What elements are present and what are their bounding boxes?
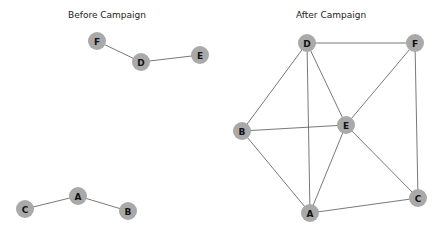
after-campaign-graph: DFBEAC: [233, 34, 427, 222]
edge-D-E: [307, 43, 346, 125]
edge-B-A: [242, 131, 310, 213]
edge-F-E: [346, 43, 415, 125]
before-campaign-graph: FDECAB: [16, 32, 209, 220]
node-label: D: [303, 39, 310, 49]
node-A: A: [69, 187, 87, 205]
edge-E-A: [310, 125, 346, 213]
node-label: C: [22, 205, 29, 215]
edge-A-C: [310, 198, 418, 213]
edge-D-A: [307, 43, 310, 213]
node-label: F: [412, 39, 418, 49]
node-C: C: [409, 189, 427, 207]
node-E: E: [337, 116, 355, 134]
node-F: F: [88, 32, 106, 50]
edge-E-C: [346, 125, 418, 198]
edge-B-E: [242, 125, 346, 131]
node-C: C: [16, 200, 34, 218]
node-label: E: [343, 121, 349, 131]
node-D: D: [132, 53, 150, 71]
node-B: B: [119, 202, 137, 220]
node-label: C: [415, 194, 422, 204]
node-label: B: [125, 207, 132, 217]
node-label: E: [197, 51, 203, 61]
node-D: D: [298, 34, 316, 52]
node-A: A: [301, 204, 319, 222]
network-graphs: FDECAB DFBEAC: [0, 0, 444, 234]
node-F: F: [406, 34, 424, 52]
edge-F-C: [415, 43, 418, 198]
node-label: D: [137, 58, 144, 68]
node-B: B: [233, 122, 251, 140]
node-label: A: [307, 209, 314, 219]
node-E: E: [191, 46, 209, 64]
edge-D-B: [242, 43, 307, 131]
node-label: A: [75, 192, 82, 202]
node-label: F: [94, 37, 100, 47]
node-label: B: [239, 127, 246, 137]
